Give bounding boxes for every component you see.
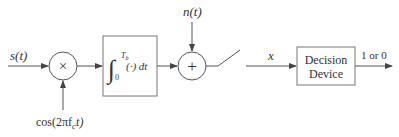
integrator-block: ∫ Tb 0 (·) dt (103, 36, 157, 96)
noise-label: n(t) (183, 4, 202, 19)
decision-line2: Device (309, 67, 343, 81)
signal-label: s(t) (10, 48, 27, 63)
decision-device-block: Decision Device (297, 47, 355, 85)
receiver-block-diagram: s(t) × cos(2πfct) ∫ Tb 0 (·) dt + n(t) x (0, 0, 399, 137)
decision-line1: Decision (305, 53, 348, 67)
sample-signal: x (246, 48, 296, 66)
sampler-switch (206, 50, 240, 66)
integral-lower-limit: 0 (115, 73, 119, 82)
plus-icon: + (187, 57, 197, 76)
carrier-label: cos(2πfct) (36, 115, 83, 131)
integrand: (·) dt (126, 60, 148, 73)
multiplier: × (49, 52, 77, 80)
signal-input: s(t) (8, 48, 48, 66)
output-label: 1 or 0 (361, 49, 387, 61)
multiply-icon: × (59, 58, 67, 74)
output-signal: 1 or 0 (355, 49, 392, 66)
adder: + (178, 52, 206, 80)
noise-input: n(t) (183, 4, 202, 51)
sample-label: x (267, 48, 274, 63)
carrier-input: cos(2πfct) (36, 81, 83, 131)
